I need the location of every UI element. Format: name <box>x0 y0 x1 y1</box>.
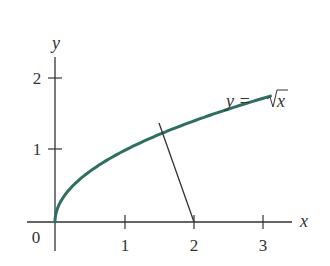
y-tick-label-2: 2 <box>33 69 42 88</box>
sqrt-curve <box>55 96 270 222</box>
x-tick-label-3: 3 <box>259 236 268 255</box>
curve-label-lhs: y = <box>224 91 251 111</box>
curve-label-rhs: x <box>276 91 285 111</box>
normal-segment <box>159 123 194 222</box>
sqrt-graph: 1 2 3 0 1 2 x y y = x <box>0 0 330 266</box>
origin-label: 0 <box>32 228 41 247</box>
y-axis-label: y <box>50 33 60 53</box>
x-tick-label-2: 2 <box>190 236 199 255</box>
x-tick-label-1: 1 <box>121 236 130 255</box>
y-tick-label-1: 1 <box>33 140 42 159</box>
x-axis-label: x <box>299 211 308 231</box>
